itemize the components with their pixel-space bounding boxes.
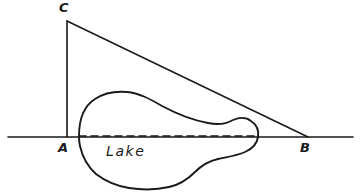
segment-cb-line	[67, 21, 308, 137]
vertex-label-c: C	[59, 1, 69, 14]
diagram-canvas	[0, 0, 361, 196]
lake-label: Lake	[106, 144, 146, 158]
lake-outline	[79, 92, 258, 190]
lake-triangle-diagram: C A B Lake	[0, 0, 361, 196]
vertex-label-b: B	[300, 141, 310, 154]
vertex-label-a: A	[58, 141, 68, 154]
